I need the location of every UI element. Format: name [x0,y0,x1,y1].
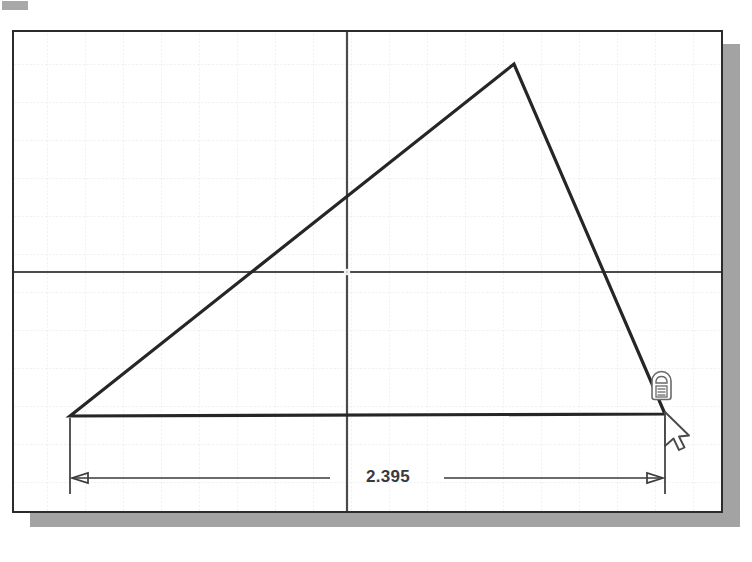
cad-drawing-canvas[interactable]: 2.395 [12,30,723,513]
dimension-layer[interactable] [14,32,721,511]
dimension-value-label[interactable]: 2.395 [366,467,410,487]
page-background [0,527,752,562]
cad-screenshot-root: 2.395 [0,0,752,562]
corner-tab [2,1,28,10]
